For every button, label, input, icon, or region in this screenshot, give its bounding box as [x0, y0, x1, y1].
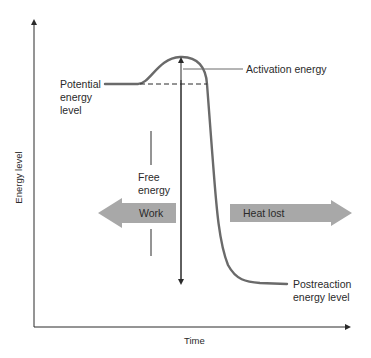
work-arrow	[98, 198, 176, 228]
potential-line1: Potential	[60, 78, 101, 91]
free-line1: Free	[138, 171, 170, 184]
diagram-graphics	[0, 0, 371, 358]
postreaction-label: Postreaction energy level	[293, 278, 351, 304]
heat-lost-label: Heat lost	[243, 207, 284, 220]
activation-energy-label: Activation energy	[246, 63, 327, 76]
x-axis-label: Time	[184, 334, 205, 347]
y-axis-label: Energy level	[12, 148, 25, 208]
post-line1: Postreaction	[293, 278, 351, 291]
potential-line3: level	[60, 104, 101, 117]
free-energy-label: Free energy	[138, 171, 170, 197]
free-line2: energy	[138, 184, 170, 197]
energy-diagram: Potential energy level Activation energy…	[0, 0, 371, 358]
post-line2: energy level	[293, 291, 351, 304]
potential-energy-label: Potential energy level	[60, 78, 101, 117]
potential-line2: energy	[60, 91, 101, 104]
work-label: Work	[139, 207, 163, 220]
energy-curve	[105, 57, 287, 284]
